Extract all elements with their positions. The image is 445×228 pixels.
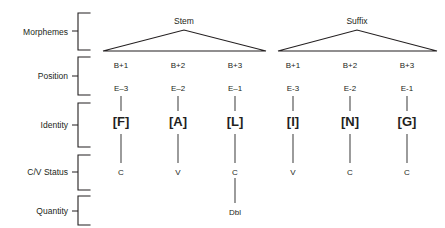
- suffix-triangle: [278, 30, 437, 51]
- position-b-5: B+2: [343, 61, 357, 70]
- row-label-identity: Identity: [0, 120, 68, 130]
- identity-3: [L]: [227, 115, 244, 129]
- position-e-1: E–3: [114, 84, 128, 93]
- position-e-2: E–2: [171, 84, 185, 93]
- cv-status-3: C: [232, 168, 238, 177]
- position-b-2: B+2: [171, 61, 185, 70]
- cv-status-2: V: [175, 168, 180, 177]
- position-e-5: E-2: [344, 84, 356, 93]
- position-e-6: E-1: [401, 84, 413, 93]
- row-label-cv-status: C/V Status: [0, 167, 68, 177]
- brace-morphemes: [72, 13, 90, 50]
- identity-4: [I]: [287, 115, 299, 129]
- brace-position: [72, 57, 90, 95]
- cv-status-5: C: [347, 168, 353, 177]
- identity-5: [N]: [341, 115, 359, 129]
- identity-6: [G]: [398, 115, 417, 129]
- position-e-3: E–1: [228, 84, 242, 93]
- position-b-3: B+3: [228, 61, 242, 70]
- position-b-6: B+3: [400, 61, 414, 70]
- brace-cv-status: [72, 155, 90, 190]
- cv-status-4: V: [290, 168, 295, 177]
- morphology-tier-diagram: Morphemes Position Identity C/V Status Q…: [0, 0, 445, 228]
- group-label-stem: Stem: [174, 16, 194, 26]
- identity-1: [F]: [113, 115, 130, 129]
- identity-2: [A]: [169, 115, 187, 129]
- cv-status-6: C: [404, 168, 410, 177]
- position-b-1: B+1: [114, 61, 128, 70]
- brace-identity: [72, 103, 90, 147]
- stem-triangle: [103, 30, 266, 51]
- row-label-position: Position: [0, 71, 68, 81]
- cv-status-1: C: [118, 168, 124, 177]
- position-e-4: E-3: [287, 84, 299, 93]
- quantity-3: Dbl: [229, 208, 241, 217]
- position-b-4: B+1: [286, 61, 300, 70]
- row-label-morphemes: Morphemes: [0, 27, 68, 37]
- brace-quantity: [72, 196, 90, 225]
- group-label-suffix: Suffix: [346, 16, 367, 26]
- row-label-quantity: Quantity: [0, 206, 68, 216]
